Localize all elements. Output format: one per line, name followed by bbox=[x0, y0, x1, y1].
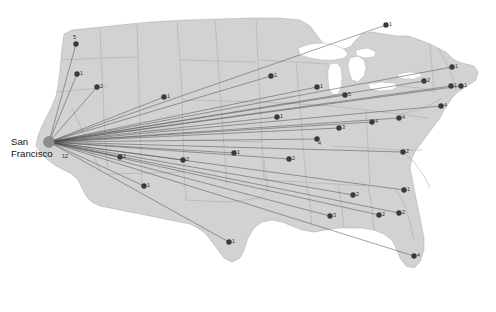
destination-node-dot[interactable] bbox=[400, 149, 405, 154]
destination-node-label: 2 bbox=[402, 209, 405, 215]
destination-node-label: 4 bbox=[375, 118, 378, 124]
destination-node-label: 1 bbox=[80, 70, 83, 76]
destination-node-label: 2 bbox=[123, 153, 126, 159]
destination-node-label: 1 bbox=[454, 82, 457, 88]
destination-node-label: 1 bbox=[407, 186, 410, 192]
destination-node-dot[interactable] bbox=[231, 150, 236, 155]
destination-node-dot[interactable] bbox=[274, 114, 279, 119]
destination-node-label: 1 bbox=[455, 63, 458, 69]
destination-node-label: 1 bbox=[147, 182, 150, 188]
destination-node-dot[interactable] bbox=[141, 183, 146, 188]
destination-node-label: 4 bbox=[417, 252, 420, 258]
destination-node-dot[interactable] bbox=[458, 83, 463, 88]
destination-node-dot[interactable] bbox=[438, 103, 443, 108]
hub-label-line1: San bbox=[11, 136, 28, 147]
destination-node-label: 1 bbox=[389, 21, 392, 27]
destination-node-dot[interactable] bbox=[74, 71, 79, 76]
destination-node-label: 4 bbox=[402, 114, 405, 120]
destination-node-label: 1 bbox=[274, 72, 277, 78]
destination-node-label: 2 bbox=[427, 77, 430, 83]
destination-node-dot[interactable] bbox=[411, 253, 416, 258]
destination-node-label: 1 bbox=[167, 93, 170, 99]
destination-node-dot[interactable] bbox=[376, 212, 381, 217]
destination-node-label: 4 bbox=[318, 140, 321, 146]
destination-node-label: 4 bbox=[444, 102, 447, 108]
destination-node-label: 5 bbox=[73, 34, 76, 40]
destination-node-dot[interactable] bbox=[350, 192, 355, 197]
destination-node-label: 2 bbox=[186, 156, 189, 162]
destination-node-label: 3 bbox=[342, 124, 345, 130]
destination-node-label: 3 bbox=[333, 212, 336, 218]
us-route-map-figure: 5121115134441111422122324212211 San Fran… bbox=[0, 0, 496, 312]
destination-node-dot[interactable] bbox=[401, 187, 406, 192]
destination-node-label: 1 bbox=[464, 82, 467, 88]
destination-node-dot[interactable] bbox=[286, 156, 291, 161]
destination-node-dot[interactable] bbox=[336, 125, 341, 130]
destination-node-label: 2 bbox=[406, 148, 409, 154]
destination-node-dot[interactable] bbox=[383, 22, 388, 27]
destination-node-dot[interactable] bbox=[73, 41, 78, 46]
map-canvas: 5121115134441111422122324212211 San Fran… bbox=[0, 0, 496, 312]
hub-label-line2: Francisco bbox=[11, 148, 53, 159]
destination-node-dot[interactable] bbox=[161, 94, 166, 99]
destination-node-label: 1 bbox=[237, 149, 240, 155]
lake-michigan-shape bbox=[328, 63, 342, 94]
destination-node-dot[interactable] bbox=[421, 78, 426, 83]
destination-node-dot[interactable] bbox=[369, 119, 374, 124]
san-francisco-hub-dot[interactable] bbox=[44, 137, 55, 148]
destination-node-label: 1 bbox=[280, 113, 283, 119]
destination-node-dot[interactable] bbox=[94, 84, 99, 89]
destination-node-dot[interactable] bbox=[268, 73, 273, 78]
destination-node-dot[interactable] bbox=[314, 84, 319, 89]
destination-node-label: 1 bbox=[320, 83, 323, 89]
destination-node-label: 5 bbox=[348, 91, 351, 97]
destination-node-label: 2 bbox=[356, 191, 359, 197]
destination-node-label: 2 bbox=[100, 83, 103, 89]
destination-node-dot[interactable] bbox=[327, 213, 332, 218]
destination-node-dot[interactable] bbox=[226, 239, 231, 244]
destination-node-label: 2 bbox=[292, 155, 295, 161]
destination-node-dot[interactable] bbox=[180, 157, 185, 162]
destination-node-label: 2 bbox=[382, 211, 385, 217]
destination-node-dot[interactable] bbox=[396, 210, 401, 215]
destination-node-dot[interactable] bbox=[117, 154, 122, 159]
destination-node-dot[interactable] bbox=[448, 83, 453, 88]
destination-node-dot[interactable] bbox=[396, 115, 401, 120]
destination-node-dot[interactable] bbox=[342, 92, 347, 97]
hub-node-group[interactable] bbox=[44, 137, 55, 148]
destination-node-label: 1 bbox=[232, 238, 235, 244]
hub-route-count: 12 bbox=[62, 153, 68, 159]
destination-node-dot[interactable] bbox=[449, 64, 454, 69]
